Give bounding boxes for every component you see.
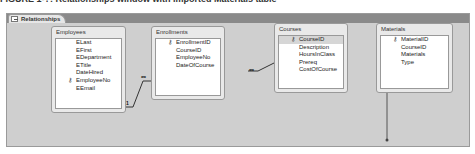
- table-employees[interactable]: Employees ELast EFirst EDepartment ETitl…: [51, 26, 126, 113]
- field-list[interactable]: ⚷MaterialID CourseID Materials Type: [380, 35, 449, 89]
- field-list[interactable]: ⚷CourseID Description HoursInClass Prere…: [278, 35, 344, 89]
- field[interactable]: CostOfCourse: [279, 66, 343, 74]
- key-icon: ⚷: [68, 77, 72, 85]
- one-marker: 1: [126, 100, 129, 106]
- field-primary-key[interactable]: ⚷EnrollmentID: [156, 39, 220, 47]
- field-primary-key[interactable]: ⚷EmployeeNo: [56, 77, 121, 85]
- field[interactable]: Materials: [381, 51, 448, 59]
- field[interactable]: DateOfCourse: [156, 62, 220, 70]
- field[interactable]: DateHired: [56, 69, 121, 77]
- table-enrollments[interactable]: Enrollments ⚷EnrollmentID CourseID Emplo…: [151, 26, 225, 100]
- key-icon: ⚷: [393, 36, 397, 44]
- key-icon: ⚷: [291, 36, 295, 44]
- relationships-window: Relationships 1 ∞ ∞ 1 1 ∞ Employees ELas…: [6, 13, 470, 147]
- field[interactable]: EFirst: [56, 47, 121, 55]
- many-marker: ∞: [141, 73, 146, 80]
- table-courses[interactable]: Courses ⚷CourseID Description HoursInCla…: [274, 23, 348, 93]
- field[interactable]: ETitle: [56, 62, 121, 70]
- field[interactable]: Prereq: [279, 59, 343, 67]
- field-list[interactable]: ELast EFirst EDepartment ETitle DateHire…: [55, 38, 122, 109]
- field[interactable]: HoursInClass: [279, 51, 343, 59]
- field-primary-key[interactable]: ⚷MaterialID: [381, 36, 448, 44]
- table-title: Courses: [275, 24, 347, 34]
- field-primary-key[interactable]: ⚷CourseID: [279, 36, 343, 44]
- key-icon: ⚷: [168, 39, 172, 47]
- table-title: Materials: [377, 24, 452, 34]
- table-title: Employees: [52, 27, 125, 37]
- field[interactable]: EEmail: [56, 85, 121, 93]
- field[interactable]: Description: [279, 44, 343, 52]
- many-marker: ∞: [249, 66, 254, 73]
- field[interactable]: CourseID: [156, 47, 220, 55]
- field[interactable]: EDepartment: [56, 54, 121, 62]
- figure-caption: FIGURE 1-?: Relationships window with im…: [0, 0, 277, 4]
- field[interactable]: ELast: [56, 39, 121, 47]
- field[interactable]: EmployeeNo: [156, 54, 220, 62]
- table-title: Enrollments: [152, 27, 224, 37]
- table-materials[interactable]: Materials ⚷MaterialID CourseID Materials…: [376, 23, 453, 93]
- field-list[interactable]: ⚷EnrollmentID CourseID EmployeeNo DateOf…: [155, 38, 221, 96]
- field[interactable]: CourseID: [381, 44, 448, 52]
- field[interactable]: Type: [381, 59, 448, 67]
